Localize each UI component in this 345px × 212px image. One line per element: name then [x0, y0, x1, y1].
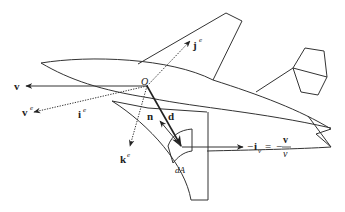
eq-minus-1: − — [247, 140, 253, 152]
label-je: j — [192, 39, 197, 51]
label-ve-sup: e — [30, 104, 33, 112]
eq-iv: i — [254, 140, 257, 152]
eq-iv-sub: v — [258, 147, 262, 155]
horizontal-tail — [256, 68, 331, 147]
label-ke: k — [120, 153, 127, 165]
surface-element-dA: dA — [168, 129, 192, 175]
vertical-tail — [293, 48, 327, 95]
label-ve: v — [22, 106, 28, 118]
label-dA: dA — [175, 165, 186, 175]
label-v: v — [14, 80, 20, 92]
label-d: d — [168, 110, 174, 122]
eq-minus-2: − — [276, 140, 282, 152]
label-n: n — [147, 110, 153, 122]
label-je-sup: e — [199, 36, 202, 44]
body-axis-ie: v e i e — [22, 86, 147, 120]
equation-iv: − i v = − v v — [247, 134, 291, 159]
label-ie: i — [78, 108, 81, 120]
eq-equals: = — [265, 140, 271, 152]
aircraft-vector-diagram: v v e i e j e k e O d dA n − — [0, 0, 345, 212]
body-axis-je: j e — [147, 36, 202, 86]
label-ie-sup: e — [83, 106, 86, 114]
eq-numerator: v — [283, 134, 288, 145]
eq-denominator: v — [283, 148, 288, 159]
body-axis-ke: k e — [120, 86, 147, 165]
origin-label: O — [141, 76, 148, 87]
label-ke-sup: e — [127, 151, 130, 159]
upper-wing — [138, 13, 242, 80]
